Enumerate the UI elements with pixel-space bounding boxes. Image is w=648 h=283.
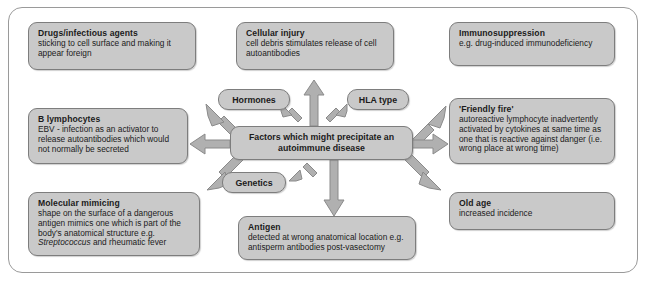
- box-body: shape on the surface of a dangerous anti…: [38, 209, 191, 248]
- box-title: 'Friendly fire': [459, 104, 606, 114]
- box-body: autoreactive lymphocyte inadvertently ac…: [459, 115, 606, 154]
- box-title: Antigen: [248, 222, 407, 232]
- pill-hla-type[interactable]: HLA type: [347, 89, 409, 110]
- box-body: sticking to cell surface and making it a…: [38, 39, 187, 59]
- box-immunosuppression[interactable]: Immunosuppression e.g. drug-induced immu…: [449, 22, 615, 66]
- box-title: Old age: [459, 198, 606, 208]
- box-body: detected at wrong anatomical location e.…: [248, 233, 407, 253]
- pill-label: HLA type: [359, 95, 397, 105]
- body-italic: Streptococcus: [38, 237, 91, 247]
- box-friendly-fire[interactable]: 'Friendly fire' autoreactive lymphocyte …: [449, 98, 615, 164]
- box-old-age[interactable]: Old age increased incidence: [449, 192, 615, 230]
- box-body: EBV - infection as an activator to relea…: [38, 125, 179, 154]
- box-title: B lymphocytes: [38, 114, 179, 124]
- pill-label: Genetics: [235, 178, 272, 188]
- box-title: Immunosuppression: [459, 28, 606, 38]
- center-label: Factors which might precipitate an autoi…: [237, 132, 406, 155]
- box-title: Drugs/infectious agents: [38, 28, 187, 38]
- box-cellular-injury[interactable]: Cellular injury cell debris stimulates r…: [236, 22, 394, 70]
- body-pre: shape on the surface of a dangerous anti…: [38, 208, 181, 238]
- box-body: e.g. drug-induced immunodeficiency: [459, 39, 606, 49]
- body-post: and rheumatic fever: [91, 237, 167, 247]
- box-title: Molecular mimicing: [38, 198, 191, 208]
- box-title: Cellular injury: [246, 28, 385, 38]
- box-body: increased incidence: [459, 209, 606, 219]
- diagram-canvas: Drugs/infectious agents sticking to cell…: [0, 0, 648, 283]
- box-b-lymphocytes[interactable]: B lymphocytes EBV - infection as an acti…: [28, 108, 188, 164]
- box-antigen[interactable]: Antigen detected at wrong anatomical loc…: [238, 216, 416, 260]
- pill-hormones[interactable]: Hormones: [218, 89, 290, 110]
- box-molecular-mimicing[interactable]: Molecular mimicing shape on the surface …: [28, 192, 200, 256]
- pill-genetics[interactable]: Genetics: [222, 172, 286, 193]
- pill-label: Hormones: [232, 95, 276, 105]
- box-body: cell debris stimulates release of cell a…: [246, 39, 385, 59]
- box-drugs-infectious-agents[interactable]: Drugs/infectious agents sticking to cell…: [28, 22, 196, 70]
- center-node[interactable]: Factors which might precipitate an autoi…: [230, 126, 413, 160]
